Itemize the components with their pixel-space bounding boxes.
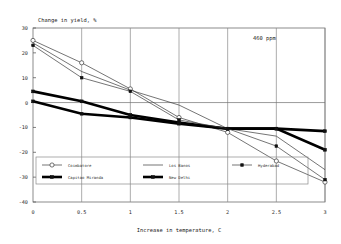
ppm-annotation: 460 ppm [253, 35, 276, 42]
legend-item: Los Banos [143, 163, 190, 168]
series-marker [178, 122, 181, 125]
legend-label: Coimbatore [68, 163, 92, 168]
legend-label: New Delhi [169, 175, 191, 180]
series-marker [80, 61, 84, 65]
legend-swatch-marker [50, 163, 54, 167]
x-tick-label: 2 [226, 209, 229, 215]
y-axis-label: Change in yield, % [38, 17, 97, 24]
series-marker [275, 127, 278, 130]
legend-border [36, 157, 308, 184]
series-marker [80, 76, 83, 79]
y-tick-label: -10 [19, 124, 28, 130]
x-tick-label: 1.5 [174, 209, 183, 215]
legend-swatch-marker [51, 176, 54, 179]
x-tick-label: 3 [323, 209, 326, 215]
series-marker [275, 145, 278, 148]
y-tick-label: -20 [19, 149, 28, 155]
series-marker [324, 178, 327, 181]
legend-swatch-marker [152, 176, 155, 179]
series-marker [32, 100, 35, 103]
legend-label: Los Banos [169, 163, 190, 168]
y-tick-label: 10 [22, 75, 28, 81]
legend-label: Hyderabad [258, 163, 279, 168]
x-tick-label: 0 [31, 209, 34, 215]
series-marker [178, 119, 181, 122]
legend-item: Hyderabad [232, 163, 279, 168]
line-chart: 3020100-10-20-30-40 00.511.522.53 Change… [0, 0, 341, 244]
x-axis-ticks: 00.511.522.53 [31, 209, 326, 215]
series-marker [129, 90, 132, 93]
y-tick-label: -30 [19, 174, 28, 180]
legend-item: New Delhi [143, 175, 191, 180]
series-marker [129, 116, 132, 119]
chart-legend: CoimbatoreLos BanosHyderabadCapitao Mira… [36, 157, 308, 184]
x-tick-label: 2.5 [272, 209, 281, 215]
x-axis-label: Increase in temperature, C [137, 227, 221, 234]
series-marker [226, 130, 230, 134]
x-tick-label: 1 [129, 209, 132, 215]
series-marker [324, 148, 327, 151]
legend-item: Capitao Miranda [42, 175, 104, 180]
chart-container: 3020100-10-20-30-40 00.511.522.53 Change… [0, 0, 341, 244]
series-marker [324, 130, 327, 133]
x-tick-label: 0.5 [77, 209, 86, 215]
legend-swatch-marker [241, 164, 244, 167]
y-tick-label: 20 [22, 50, 28, 56]
legend-label: Capitao Miranda [68, 175, 104, 180]
y-tick-label: 30 [22, 25, 28, 31]
y-tick-label: -40 [19, 199, 28, 205]
legend-item: Coimbatore [42, 163, 92, 168]
series-marker [80, 112, 83, 115]
series-marker [32, 90, 35, 93]
vertical-gridlines [82, 28, 325, 202]
series-marker [226, 127, 229, 130]
series-marker [80, 100, 83, 103]
y-tick-label: 0 [25, 100, 28, 106]
series-marker [32, 44, 35, 47]
series-marker [31, 38, 35, 42]
